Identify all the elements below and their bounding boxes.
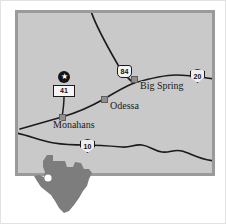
regional-map-frame: Big Spring Odessa Monahans ★ 84 20 10 41 (15, 10, 215, 176)
texas-state-inset (31, 153, 99, 215)
city-label-big-spring: Big Spring (140, 80, 184, 91)
star-glyph: ★ (61, 72, 68, 81)
city-marker-odessa[interactable] (101, 96, 108, 103)
map-figure-card: Big Spring Odessa Monahans ★ 84 20 10 41 (0, 0, 226, 224)
texas-outline-shape (34, 155, 92, 213)
city-label-monahans: Monahans (53, 119, 95, 130)
star-site-marker-icon[interactable]: ★ (58, 71, 70, 83)
road-network (18, 13, 212, 173)
city-marker-big-spring[interactable] (131, 76, 138, 83)
us-shield-icon-84[interactable]: 84 (117, 65, 132, 78)
location-dot-icon (44, 174, 51, 181)
city-label-odessa: Odessa (110, 100, 139, 111)
state-route-marker-icon-41[interactable]: 41 (53, 85, 75, 97)
